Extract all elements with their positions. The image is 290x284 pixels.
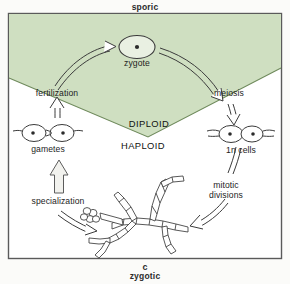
label-1n-cells: 1n cells xyxy=(226,145,256,155)
label-divisions: divisions xyxy=(209,190,243,200)
figure-canvas: sporic xyxy=(0,0,290,284)
zygote-cell xyxy=(119,36,155,59)
label-mitotic: mitotic xyxy=(213,180,239,190)
label-specialization: specialization xyxy=(32,196,85,206)
label-fertilization: fertilization xyxy=(36,88,78,98)
label-meiosis: meiosis xyxy=(214,88,244,98)
label-diploid: DIPLOID xyxy=(129,118,169,129)
caption-bottom-word: zygotic xyxy=(0,271,290,281)
label-haploid: HAPLOID xyxy=(121,140,165,151)
label-zygote: zygote xyxy=(124,58,150,68)
label-gametes: gametes xyxy=(31,144,65,154)
